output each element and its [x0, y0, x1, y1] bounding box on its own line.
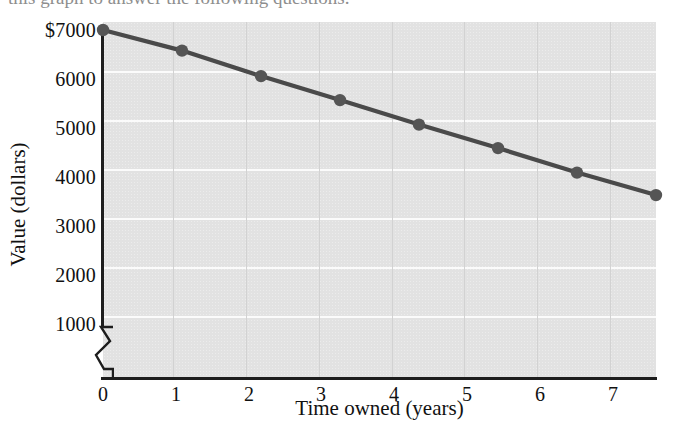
gridline-horizontal-4000 — [103, 169, 656, 171]
plot-area — [103, 22, 656, 378]
y-tick-label-7000: $7000 — [10, 19, 96, 42]
gridline-vertical-2 — [246, 22, 247, 378]
paper-grain-texture — [103, 22, 656, 378]
gridline-vertical-3 — [319, 22, 320, 378]
gridline-vertical-6 — [537, 22, 538, 378]
gridline-vertical-4 — [392, 22, 393, 378]
gridline-horizontal-1000 — [103, 316, 656, 318]
gridline-horizontal-2000 — [103, 267, 656, 269]
gridline-horizontal-6000 — [103, 71, 656, 73]
x-axis-line — [101, 377, 657, 380]
gridline-horizontal-3000 — [103, 218, 656, 220]
gridline-horizontal-5000 — [103, 120, 656, 122]
y-tick-label-1000: 1000 — [10, 313, 96, 336]
y-axis-title: Value (dollars) — [6, 105, 31, 305]
chart-page: this graph to answer the following quest… — [0, 0, 676, 425]
y-tick-label-6000: 6000 — [10, 68, 96, 91]
gridline-vertical-7 — [610, 22, 611, 378]
cropped-header-text: this graph to answer the following quest… — [0, 0, 676, 14]
gridline-vertical-5 — [464, 22, 465, 378]
gridline-vertical-1 — [173, 22, 174, 378]
y-axis-line — [101, 28, 104, 328]
x-axis-title: Time owned (years) — [103, 396, 656, 421]
